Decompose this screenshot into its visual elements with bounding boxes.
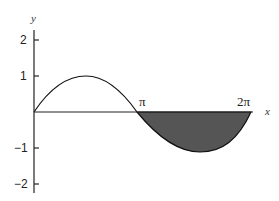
x-tick-pi: π	[139, 94, 146, 109]
y-axis-label: y	[30, 12, 36, 24]
x-tick-2pi: 2π	[237, 94, 251, 109]
y-tick-1: 1	[20, 69, 27, 83]
sine-curve	[34, 76, 137, 112]
y-tick-minus-1: −1	[14, 141, 28, 155]
y-tick-2: 2	[20, 33, 27, 47]
y-tick-minus-2: −2	[14, 177, 28, 191]
x-axis-label: x	[264, 105, 270, 117]
sine-chart: y x 2 1 −1 −2 π 2π	[0, 0, 279, 201]
shaded-region	[137, 112, 251, 152]
